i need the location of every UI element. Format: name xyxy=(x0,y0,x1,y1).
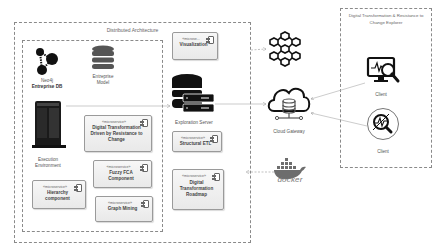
component-icon xyxy=(212,135,218,143)
component-icon xyxy=(208,36,214,44)
docker-label: docker xyxy=(270,177,310,183)
execution-environment-label: Execution Environment xyxy=(25,157,71,169)
cloud-gateway-label: Cloud Gateway xyxy=(266,129,312,135)
graph-nodes-icon xyxy=(32,46,62,76)
microservice-name: Digital Transformation Driven by Resista… xyxy=(85,124,151,143)
neo4j-line1: Neo4j xyxy=(41,78,53,83)
cube-network-icon xyxy=(266,30,304,68)
client-2-label: Client xyxy=(368,149,398,155)
exploration-server-label: Exploration Server xyxy=(168,120,220,126)
execution-env-line2: Environment xyxy=(35,163,61,168)
component-icon xyxy=(76,184,82,192)
monitor-magnifier-icon xyxy=(366,56,400,86)
microservice-visualization[interactable]: «microse... Visualization xyxy=(172,32,218,60)
component-icon xyxy=(214,173,220,181)
component-icon xyxy=(142,119,148,127)
enterprise-model-line2: Model xyxy=(97,80,110,85)
neo4j-label: Neo4j Entreprise DB xyxy=(22,78,72,90)
microservice-name: Digital Transformation Roadmap xyxy=(173,178,223,198)
microservice-digital-transformation[interactable]: «microservice» Digital Transformation Dr… xyxy=(84,115,152,152)
circle-analysis-icon xyxy=(366,107,400,141)
microservice-roadmap[interactable]: «microservice» Digital Transformation Ro… xyxy=(172,169,224,210)
microservice-structural-etl[interactable]: «microservice» Structural ETL xyxy=(172,131,222,152)
client-1-label: Client xyxy=(366,92,396,98)
enterprise-model-line1: Entreprise xyxy=(93,74,114,79)
component-icon xyxy=(142,164,148,172)
database-icon xyxy=(91,45,115,71)
cloud-database-icon xyxy=(266,83,312,125)
execution-env-line1: Execution xyxy=(38,157,58,162)
component-icon xyxy=(143,200,149,208)
microservice-hierarchy[interactable]: «microservice» Hierarchy component xyxy=(32,180,86,209)
server-tower-icon xyxy=(32,101,66,151)
neo4j-line2: Entreprise DB xyxy=(32,84,63,89)
microservice-graph-mining[interactable]: «microservice» Graph Mining xyxy=(95,196,153,222)
enterprise-model-label: Entreprise Model xyxy=(84,74,122,86)
database-server-icon xyxy=(171,73,215,117)
microservice-fuzzy-fca[interactable]: «microservice» Fuzzy FCA Component xyxy=(93,160,152,188)
